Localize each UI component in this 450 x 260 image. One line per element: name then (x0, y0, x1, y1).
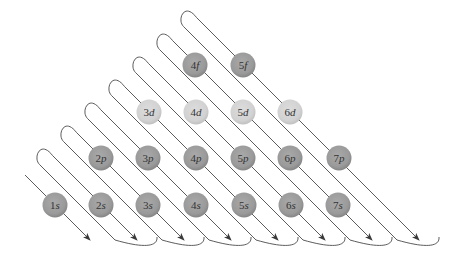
orbital-5s: 5s (232, 193, 257, 218)
orbital-label: 2p (96, 152, 108, 164)
orbital-label: 7s (333, 199, 343, 211)
orbital-3p: 3p (136, 146, 161, 171)
orbital-2s: 2s (89, 193, 114, 218)
orbital-4s: 4s (184, 193, 209, 218)
orbital-nodes: 1s2s3s4s5s6s7s2p3p4p5p6p7p3d4d5d6d4f5f (43, 53, 352, 218)
orbital-6d: 6d (278, 100, 303, 125)
orbital-label: 5d (238, 106, 250, 118)
orbital-6p: 6p (278, 146, 303, 171)
diagonal-arrow-8 (181, 11, 439, 245)
orbital-4f: 4f (183, 53, 208, 78)
diagonal-arrows (25, 11, 439, 245)
orbital-label: 7p (334, 152, 346, 164)
orbital-label: 3d (144, 106, 156, 118)
orbital-label: 3s (143, 199, 153, 211)
orbital-label: 3p (143, 152, 155, 164)
orbital-5p: 5p (231, 146, 256, 171)
orbital-label: 4p (191, 152, 203, 164)
orbital-label: 4d (191, 106, 203, 118)
orbital-label: 2s (96, 199, 106, 211)
aufbau-diagonal-rule-diagram: 1s2s3s4s5s6s7s2p3p4p5p6p7p3d4d5d6d4f5f (0, 0, 450, 260)
orbital-3s: 3s (136, 193, 161, 218)
orbital-4p: 4p (184, 146, 209, 171)
orbital-2p: 2p (89, 146, 114, 171)
orbital-label: 6s (286, 199, 296, 211)
orbital-7p: 7p (327, 146, 352, 171)
orbital-6s: 6s (279, 193, 304, 218)
orbital-label: 6d (285, 106, 297, 118)
orbital-5d: 5d (231, 100, 256, 125)
orbital-5f: 5f (231, 53, 256, 78)
orbital-4d: 4d (184, 100, 209, 125)
orbital-label: 1s (50, 199, 60, 211)
orbital-7s: 7s (326, 193, 351, 218)
orbital-label: 5s (239, 199, 249, 211)
orbital-3d: 3d (137, 100, 162, 125)
orbital-label: 6p (285, 152, 297, 164)
orbital-label: 5p (238, 152, 250, 164)
orbital-label: 4s (191, 199, 201, 211)
orbital-1s: 1s (43, 193, 68, 218)
